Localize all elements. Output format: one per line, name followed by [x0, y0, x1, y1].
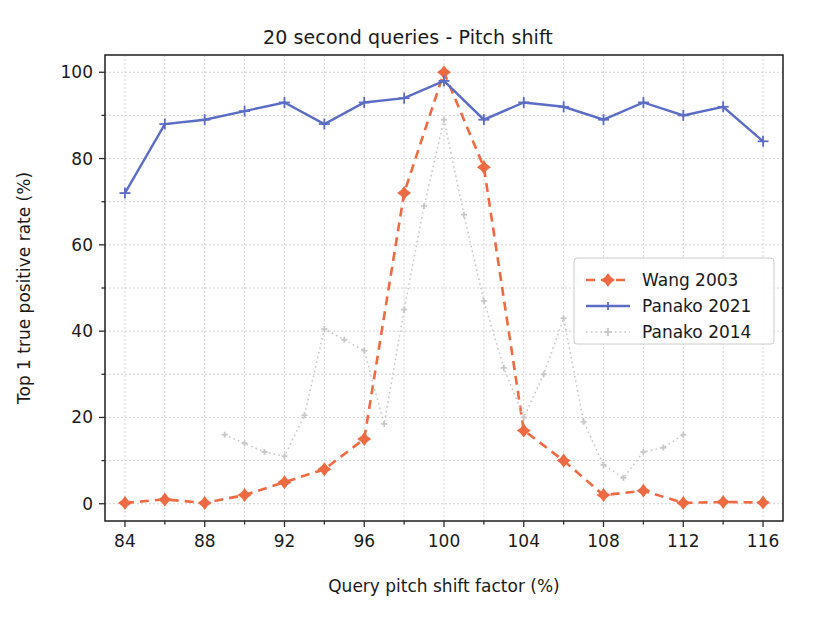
y-tick-label: 0: [82, 494, 93, 514]
legend[interactable]: Wang 2003Panako 2021Panako 2014: [574, 258, 774, 344]
x-tick-label: 88: [194, 531, 216, 551]
plot-area: 84889296100104108112116 020406080100 Que…: [0, 0, 816, 622]
x-tick-label: 116: [747, 531, 779, 551]
x-tick-label: 92: [274, 531, 296, 551]
x-tick-label: 108: [587, 531, 619, 551]
x-tick-labels: 84889296100104108112116: [114, 531, 779, 551]
x-tick-label: 104: [508, 531, 540, 551]
y-tick-label: 40: [71, 321, 93, 341]
x-tick-label: 96: [353, 531, 375, 551]
y-axis-title: Top 1 true positive rate (%): [14, 172, 34, 405]
chart-figure: 20 second queries - Pitch shift 84889296…: [0, 0, 816, 622]
y-tick-label: 60: [71, 235, 93, 255]
legend-label: Panako 2014: [642, 322, 751, 342]
x-tick-label: 100: [428, 531, 460, 551]
y-tick-label: 100: [61, 62, 93, 82]
y-tick-label: 80: [71, 149, 93, 169]
y-tick-label: 20: [71, 407, 93, 427]
x-axis-title: Query pitch shift factor (%): [328, 576, 560, 596]
y-tick-labels: 020406080100: [61, 62, 93, 513]
x-tick-label: 84: [114, 531, 136, 551]
legend-label: Panako 2021: [642, 296, 751, 316]
legend-label: Wang 2003: [642, 270, 738, 290]
x-tick-label: 112: [667, 531, 699, 551]
